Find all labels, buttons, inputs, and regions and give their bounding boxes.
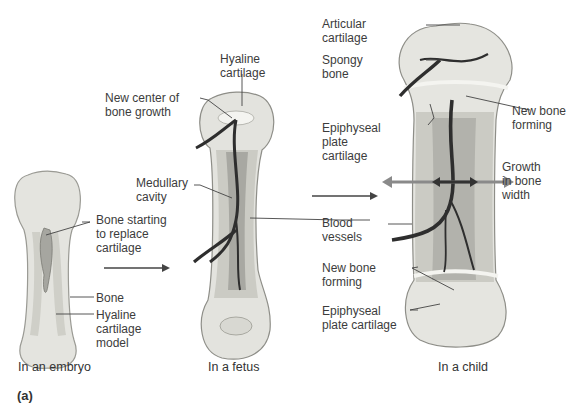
label-line: Blood — [322, 216, 362, 230]
child-bone-illustration — [392, 23, 512, 347]
label-line: plate — [322, 135, 381, 149]
label-line: in bone — [502, 174, 541, 188]
label-line: model — [96, 336, 141, 350]
caption-child: In a child — [438, 360, 488, 374]
label-medullary-cavity: Medullary cavity — [136, 176, 188, 204]
caption-fetus: In a fetus — [208, 360, 259, 374]
fetus-bone-illustration — [194, 92, 274, 359]
label-line: cavity — [136, 190, 188, 204]
label-hyaline-cartilage-model: Hyaline cartilage model — [96, 308, 141, 350]
label-line: vessels — [322, 230, 362, 244]
embryo-bone-illustration — [15, 171, 81, 368]
label-line: New bone — [322, 261, 376, 275]
label-line: Hyaline — [96, 308, 141, 322]
label-new-bone-forming-top: New bone forming — [512, 104, 566, 132]
label-line: to replace — [96, 227, 167, 241]
label-articular-cartilage: Articular cartilage — [322, 17, 367, 45]
label-growth-in-bone-width: Growth in bone width — [502, 160, 541, 202]
label-line: bone growth — [105, 105, 179, 119]
label-epiphyseal-plate-cartilage-top: Epiphyseal plate cartilage — [322, 121, 381, 163]
label-line: cartilage — [220, 66, 265, 80]
label-line: cartilage — [322, 31, 367, 45]
label-epiphyseal-plate-cartilage-bottom: Epiphyseal plate cartilage — [322, 304, 397, 332]
label-line: bone — [322, 67, 363, 81]
label-bone: Bone — [96, 291, 124, 305]
label-line: Epiphyseal — [322, 121, 381, 135]
label-new-center-of-bone-growth: New center of bone growth — [105, 91, 179, 119]
label-line: Spongy — [322, 53, 363, 67]
label-line: cartilage — [96, 322, 141, 336]
bone-growth-diagram — [0, 0, 585, 416]
label-line: width — [502, 188, 541, 202]
label-line: cartilage — [96, 241, 167, 255]
label-line: forming — [322, 275, 376, 289]
label-line: Articular — [322, 17, 367, 31]
label-new-bone-forming-bottom: New bone forming — [322, 261, 376, 289]
label-line: New bone — [512, 104, 566, 118]
label-line: forming — [512, 118, 566, 132]
label-hyaline-cartilage: Hyaline cartilage — [220, 52, 265, 80]
label-line: Bone — [96, 291, 124, 305]
label-line: Epiphyseal — [322, 304, 397, 318]
label-line: New center of — [105, 91, 179, 105]
label-bone-starting-to-replace: Bone starting to replace cartilage — [96, 213, 167, 255]
label-line: Medullary — [136, 176, 188, 190]
label-line: Bone starting — [96, 213, 167, 227]
label-line: cartilage — [322, 149, 381, 163]
label-line: Hyaline — [220, 52, 265, 66]
panel-label: (a) — [17, 388, 33, 403]
label-blood-vessels: Blood vessels — [322, 216, 362, 244]
label-spongy-bone: Spongy bone — [322, 53, 363, 81]
label-line: Growth — [502, 160, 541, 174]
label-line: plate cartilage — [322, 318, 397, 332]
caption-embryo: In an embryo — [18, 360, 91, 374]
